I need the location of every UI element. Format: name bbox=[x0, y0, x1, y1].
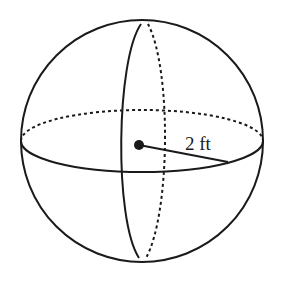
equator-back-dashed bbox=[21, 110, 263, 141]
radius-line bbox=[139, 145, 228, 162]
meridian-back-dashed bbox=[146, 24, 165, 258]
radius-label: 2 ft bbox=[185, 133, 212, 154]
sphere-diagram: 2 ft bbox=[0, 0, 284, 284]
